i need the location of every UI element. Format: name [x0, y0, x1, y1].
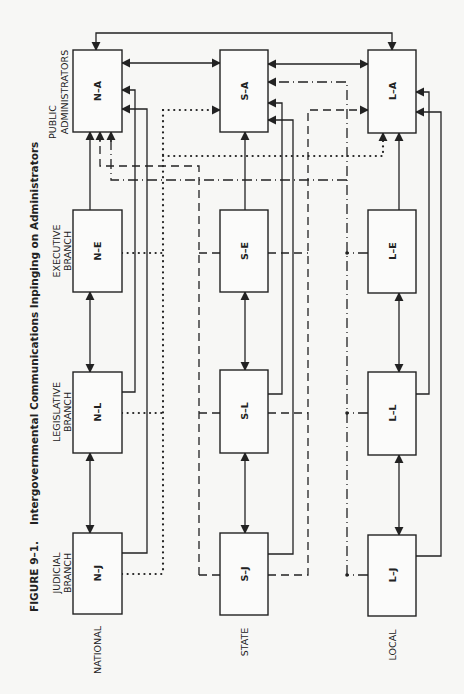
svg-text:PUBLIC: PUBLIC: [47, 105, 58, 139]
svg-text:EXECUTIVE: EXECUTIVE: [51, 224, 62, 277]
column-label-state: STATE: [239, 628, 250, 657]
box-label-sa: S–A: [239, 81, 250, 101]
svg-text:LEGISLATIVE: LEGISLATIVE: [51, 382, 62, 442]
box-label-nj: N–J: [92, 565, 103, 581]
box-label-sj: S–J: [239, 566, 250, 581]
box-label-ll: L–L: [387, 405, 398, 422]
box-label-nl: N–L: [92, 403, 103, 422]
intergovernmental-communications-diagram: FIGURE 9–1. Intergovernmental Communicat…: [0, 0, 464, 694]
box-label-ne: N–E: [92, 241, 103, 260]
box-label-la: L–A: [387, 81, 398, 100]
svg-text:JUDICIAL: JUDICIAL: [51, 552, 62, 595]
svg-text:ADMINISTRATORS: ADMINISTRATORS: [59, 50, 70, 134]
box-label-na: N–A: [92, 80, 103, 101]
dash-dot-connectors-local: [111, 82, 368, 575]
svg-text:BRANCH: BRANCH: [62, 553, 73, 593]
svg-text:BRANCH: BRANCH: [62, 392, 73, 432]
box-label-sl: S–L: [239, 402, 250, 420]
column-label-national: NATIONAL: [92, 625, 103, 674]
row-label-exec: EXECUTIVE BRANCH: [51, 224, 73, 277]
box-label-le: L–E: [387, 242, 398, 259]
row-label-leg: LEGISLATIVE BRANCH: [51, 382, 73, 442]
figure-number: FIGURE 9–1.: [28, 541, 40, 612]
figure-caption: FIGURE 9–1. Intergovernmental Communicat…: [28, 142, 40, 612]
box-label-lj: L–J: [387, 568, 398, 582]
figure-title: Intergovernmental Communications Inpingi…: [28, 142, 40, 525]
svg-text:BRANCH: BRANCH: [62, 231, 73, 271]
box-label-se: S–E: [239, 242, 250, 260]
row-label-admin: PUBLIC ADMINISTRATORS: [47, 50, 70, 139]
column-label-local: LOCAL: [387, 629, 398, 661]
row-label-jud: JUDICIAL BRANCH: [51, 552, 73, 595]
